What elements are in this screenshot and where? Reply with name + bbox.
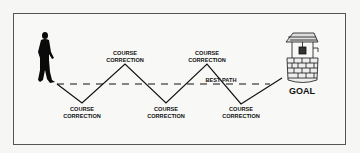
correction-label-1-line2: CORRECTION [63,113,101,119]
wishing-well-icon [286,33,318,83]
correction-label-4-line2: CORRECTION [188,57,226,63]
correction-label-4-line1: COURSE [195,50,219,56]
correction-label-5-line1: COURSE [229,106,253,112]
goal-label: GOAL [289,86,316,96]
correction-label-3-line1: COURSE [154,106,178,112]
actual-path-zigzag [57,64,282,104]
correction-label-3-line2: CORRECTION [147,113,185,119]
correction-label-5-line2: CORRECTION [222,113,260,119]
walking-person-icon [38,32,55,83]
diagram-canvas: GOAL BEST PATH COURSE CORRECTION COURSE … [0,0,360,153]
correction-label-2-line2: CORRECTION [106,57,144,63]
correction-label-1-line1: COURSE [70,106,94,112]
correction-label-2-line1: COURSE [113,50,137,56]
best-path-label: BEST PATH [206,77,237,83]
